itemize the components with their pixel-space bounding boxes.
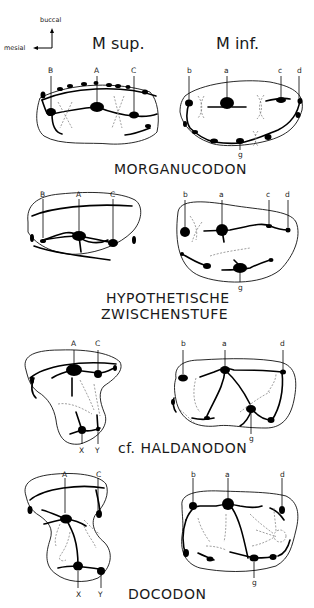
cusp-label-d: d bbox=[280, 470, 285, 479]
docodon-lower-molar-diagram bbox=[0, 0, 314, 608]
cusp-label-b: b bbox=[191, 470, 196, 479]
cusp-label-g: g bbox=[252, 578, 257, 587]
cusp-label-a: a bbox=[225, 470, 230, 479]
taxon-label-docodon: DOCODON bbox=[128, 586, 206, 602]
